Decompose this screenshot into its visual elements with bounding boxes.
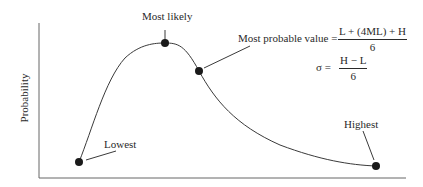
formula-sigma-lhs: σ =: [316, 62, 331, 73]
formula-sigma-denominator: 6: [350, 69, 356, 82]
point-most-likely: [161, 39, 169, 47]
leader-lowest: [86, 151, 116, 160]
formula-mpv-denominator: 6: [370, 40, 376, 53]
point-highest: [372, 162, 380, 170]
y-axis-label: Probability: [18, 68, 30, 128]
formula-mpv-numerator: L + (4ML) + H: [338, 26, 407, 40]
label-highest: Highest: [344, 119, 378, 130]
point-lowest: [75, 158, 83, 166]
leader-most-probable: [204, 46, 250, 68]
label-most-likely: Most likely: [142, 11, 192, 22]
point-most-probable: [195, 67, 203, 75]
formula-mpv-fraction: L + (4ML) + H 6: [338, 26, 407, 53]
leader-highest: [363, 131, 374, 160]
formula-sigma-numerator: H − L: [339, 55, 367, 69]
formula-sigma-fraction: H − L 6: [339, 55, 367, 82]
label-lowest: Lowest: [104, 139, 136, 150]
label-most-probable: Most probable value =: [238, 33, 337, 44]
